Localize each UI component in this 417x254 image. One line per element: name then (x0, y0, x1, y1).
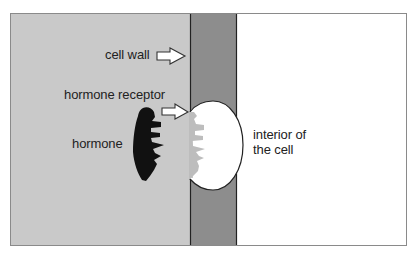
interior-of-cell-label: interior of the cell (253, 127, 306, 157)
diagram-canvas (0, 0, 417, 254)
hormone-receptor (188, 101, 243, 190)
hormone-receptor-label: hormone receptor (64, 87, 165, 102)
cell-wall-label: cell wall (105, 47, 150, 62)
interior-label-line-2: the cell (253, 142, 306, 157)
receptor-oval (190, 101, 243, 190)
exterior-region (10, 13, 191, 246)
hormone-receptor-diagram: cell wall hormone receptor hormone inter… (0, 0, 417, 254)
interior-label-line-1: interior of (253, 127, 306, 142)
hormone-label: hormone (72, 136, 123, 151)
